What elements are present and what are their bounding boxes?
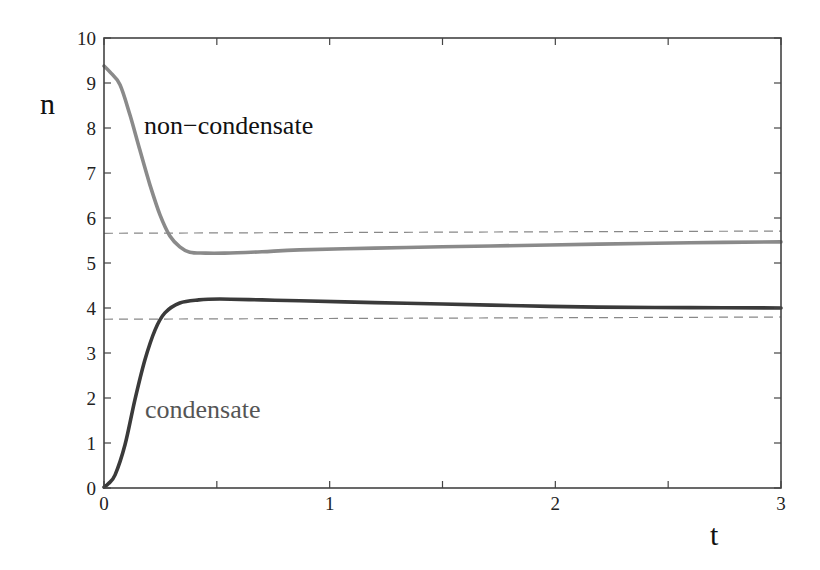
- annotation-condensate: condensate: [145, 395, 261, 424]
- y-tick-label: 7: [87, 163, 97, 184]
- chart: 0123456789100123 n t non−condensate cond…: [0, 0, 820, 570]
- y-axis-label: n: [40, 87, 55, 120]
- y-tick-label: 2: [87, 388, 97, 409]
- y-tick-label: 5: [87, 253, 97, 274]
- series-line-non-condensate: [104, 66, 781, 253]
- x-tick-label: 2: [551, 493, 561, 514]
- y-tick-label: 9: [87, 73, 97, 94]
- x-tick-label: 3: [776, 493, 786, 514]
- y-tick-label: 6: [87, 208, 97, 229]
- x-axis-label: t: [710, 518, 719, 551]
- y-tick-label: 0: [87, 478, 97, 499]
- dashed-reference-line: [104, 317, 781, 319]
- x-tick-label: 0: [99, 493, 109, 514]
- annotation-non-condensate: non−condensate: [144, 111, 313, 140]
- series-line-condensate: [104, 299, 781, 487]
- y-tick-label: 10: [77, 28, 96, 49]
- y-tick-label: 1: [87, 433, 97, 454]
- tick-labels: 0123456789100123: [77, 28, 786, 514]
- y-tick-label: 8: [87, 118, 97, 139]
- dashed-reference-line: [104, 231, 781, 233]
- y-tick-label: 3: [87, 343, 97, 364]
- x-tick-label: 1: [325, 493, 335, 514]
- y-tick-label: 4: [87, 298, 97, 319]
